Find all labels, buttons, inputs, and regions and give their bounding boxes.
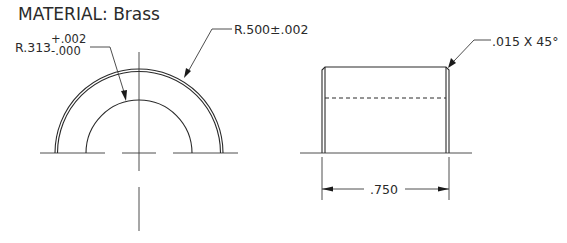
dimension-arrow-right: [438, 187, 449, 192]
inner-radius-arrowhead: [121, 90, 127, 101]
outer-radius-leader: [189, 29, 232, 70]
chamfer-value: .015 X 45°: [492, 34, 559, 49]
length-dimension: .750: [322, 157, 449, 200]
outer-radius-value: R.500±.002: [234, 22, 308, 37]
material-label: MATERIAL: Brass: [18, 4, 160, 24]
inner-radius-lower-tolerance: -.000: [51, 44, 81, 58]
inner-radius-leader: [90, 47, 124, 92]
side-outline: [322, 67, 449, 153]
inner-radius-value: R.313: [15, 40, 51, 55]
inner-radius-callout: R.313 +.002 -.000: [15, 32, 127, 101]
chamfer-arrowhead: [448, 58, 456, 68]
side-view: .015 X 45° .750: [300, 34, 559, 200]
dimension-arrow-left: [322, 187, 333, 192]
chamfer-leader: [454, 40, 491, 61]
length-value: .750: [370, 182, 398, 197]
technical-drawing: MATERIAL: Brass R.313 +.002 -.000 R.500±…: [0, 0, 567, 243]
outer-radius-callout: R.500±.002: [184, 22, 308, 78]
chamfer-callout: .015 X 45°: [448, 34, 559, 68]
outer-radius-arrowhead: [184, 68, 191, 78]
front-view: R.313 +.002 -.000 R.500±.002: [15, 22, 308, 231]
